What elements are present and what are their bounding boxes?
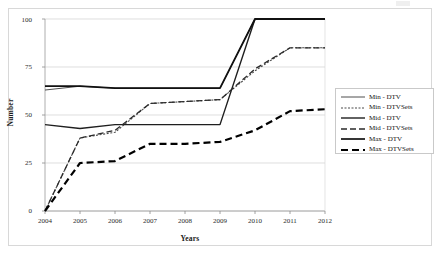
legend-label-mid-dtv: Mid - DTV bbox=[369, 114, 401, 123]
legend-label-min-dtv: Min - DTV bbox=[369, 93, 401, 102]
legend-label-max-dtvsets: Max - DTVSets bbox=[369, 145, 414, 154]
series-line bbox=[45, 48, 325, 211]
legend-swatch-mid-dtv bbox=[340, 114, 366, 122]
legend-item-mid-dtvsets: Mid - DTVSets bbox=[340, 124, 433, 134]
gridlines bbox=[45, 19, 325, 211]
series-line bbox=[45, 48, 325, 211]
legend-swatch-max-dtv bbox=[340, 135, 366, 143]
chart-legend: Min - DTV Min - DTVSets Mid - DTV Mid - … bbox=[335, 88, 434, 154]
legend-label-max-dtv: Max - DTV bbox=[369, 135, 402, 144]
series-line bbox=[45, 19, 325, 88]
chart-figure: Number Years 100 75 50 25 0 2004 2005 20… bbox=[0, 0, 441, 263]
legend-item-mid-dtv: Mid - DTV bbox=[340, 113, 433, 123]
series-line bbox=[45, 19, 325, 90]
legend-item-max-dtv: Max - DTV bbox=[340, 134, 433, 144]
legend-item-min-dtvsets: Min - DTVSets bbox=[340, 103, 433, 113]
legend-item-min-dtv: Min - DTV bbox=[340, 92, 433, 102]
series-line bbox=[45, 19, 325, 128]
legend-swatch-min-dtvsets bbox=[340, 104, 366, 112]
legend-label-mid-dtvsets: Mid - DTVSets bbox=[369, 124, 413, 133]
legend-swatch-mid-dtvsets bbox=[340, 125, 366, 133]
axis-tick-marks bbox=[42, 19, 325, 214]
legend-item-max-dtvsets: Max - DTVSets bbox=[340, 145, 433, 155]
legend-label-min-dtvsets: Min - DTVSets bbox=[369, 103, 413, 112]
legend-swatch-max-dtvsets bbox=[340, 146, 366, 154]
legend-swatch-min-dtv bbox=[340, 93, 366, 101]
